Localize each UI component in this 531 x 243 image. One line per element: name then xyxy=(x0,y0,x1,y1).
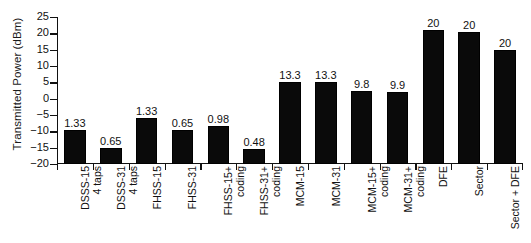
x-tick-label: DSSS-314 taps xyxy=(116,166,139,210)
bar-value-label: 1.33 xyxy=(64,117,85,129)
x-tick-label: Sector xyxy=(474,166,486,196)
bar: 0.65 xyxy=(172,130,194,164)
x-tick-label: DSSS-154 taps xyxy=(80,166,103,210)
bar: 13.3 xyxy=(279,82,301,164)
bar-value-label: 20 xyxy=(499,37,511,49)
y-tick-label: 20 xyxy=(17,26,49,38)
y-tick-label: 25 xyxy=(17,10,49,22)
bar-value-label: 20 xyxy=(427,17,439,29)
x-axis-labels: DSSS-154 tapsDSSS-314 tapsFHSS-15FHSS-31… xyxy=(57,166,523,243)
bar-value-label: 0.48 xyxy=(243,136,264,148)
bar: 13.3 xyxy=(315,82,337,164)
y-tick-mark xyxy=(50,17,57,18)
bar: 1.33 xyxy=(64,130,86,164)
x-tick-label: FHSS-15 xyxy=(152,166,164,209)
bar-value-label: 9.8 xyxy=(354,78,369,90)
bar: 0.65 xyxy=(100,148,122,164)
bar-value-label: 9.9 xyxy=(390,79,405,91)
x-tick-label: DFE xyxy=(438,166,450,187)
bar: 0.48 xyxy=(243,149,265,164)
y-tick-label: 15 xyxy=(17,43,49,55)
bar: 9.8 xyxy=(351,91,373,165)
y-tick-label: −15 xyxy=(17,141,49,153)
bar-value-label: 13.3 xyxy=(279,69,300,81)
y-axis-line xyxy=(57,17,58,164)
bar-value-label: 20 xyxy=(463,19,475,31)
y-tick-mark xyxy=(50,115,57,116)
y-tick-label: 10 xyxy=(17,59,49,71)
y-tick-label: −10 xyxy=(17,124,49,136)
x-tick-label: MCM-15+coding xyxy=(367,166,390,212)
bar: 0.98 xyxy=(208,126,230,164)
plot-area: 2520151050−5−10−15−20 1.330.651.330.650.… xyxy=(57,17,523,164)
bar-value-label: 0.65 xyxy=(100,135,121,147)
x-tick-label: MCM-15 xyxy=(295,166,307,206)
bar-value-label: 0.98 xyxy=(208,113,229,125)
bar: 20 xyxy=(458,32,480,164)
bar: 1.33 xyxy=(136,118,158,164)
x-tick-label: Sector + DFE xyxy=(510,166,522,229)
x-tick-label: FHSS-31 xyxy=(187,166,199,209)
bar-value-label: 13.3 xyxy=(315,69,336,81)
y-tick-label: 0 xyxy=(17,92,49,104)
y-tick-mark xyxy=(50,82,57,83)
y-tick-label: −20 xyxy=(17,157,49,169)
y-tick-mark xyxy=(50,99,57,100)
bar: 20 xyxy=(423,30,445,164)
bar-value-label: 1.33 xyxy=(136,105,157,117)
bar-chart: Transmitted Power (dBm) 2520151050−5−10−… xyxy=(0,0,531,243)
y-tick-mark xyxy=(50,66,57,67)
x-tick-label: FHSS-15+coding xyxy=(223,166,246,215)
y-tick-mark xyxy=(50,131,57,132)
bar-value-label: 0.65 xyxy=(172,117,193,129)
y-tick-label: 5 xyxy=(17,75,49,87)
y-tick-mark xyxy=(50,148,57,149)
y-tick-label: −5 xyxy=(17,108,49,120)
y-tick-mark xyxy=(50,50,57,51)
x-tick-label: MCM-31+coding xyxy=(403,166,426,212)
y-tick-mark xyxy=(50,33,57,34)
bar: 20 xyxy=(494,50,516,164)
bar: 9.9 xyxy=(387,92,409,164)
x-tick-label: MCM-31 xyxy=(331,166,343,206)
y-tick-mark xyxy=(50,164,57,165)
x-tick-label: FHSS-31+coding xyxy=(259,166,282,215)
